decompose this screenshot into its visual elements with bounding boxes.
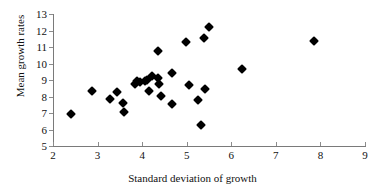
data-point: [144, 86, 154, 96]
y-tick-label: 9: [29, 75, 47, 86]
data-point: [167, 99, 177, 109]
x-tick-label: 4: [139, 150, 145, 161]
y-tick: [49, 146, 53, 147]
data-point: [87, 86, 97, 96]
x-tick-label: 2: [50, 150, 56, 161]
x-tick-label: 9: [362, 150, 368, 161]
data-point: [105, 94, 115, 104]
x-axis-line: [53, 146, 366, 147]
y-tick-label: 6: [29, 124, 47, 135]
x-axis-title: Standard deviation of growth: [0, 172, 385, 184]
y-tick-label: 10: [29, 58, 47, 69]
data-point: [167, 68, 177, 78]
scatter-chart: Standard deviation of growth Mean growth…: [0, 0, 385, 196]
y-tick-label: 5: [29, 141, 47, 152]
x-tick-label: 5: [184, 150, 190, 161]
x-tick-label: 6: [229, 150, 235, 161]
y-tick-label: 8: [29, 91, 47, 102]
data-point: [119, 107, 129, 117]
data-point: [196, 120, 206, 130]
data-point: [309, 36, 319, 46]
x-tick-label: 3: [95, 150, 101, 161]
data-point: [66, 109, 76, 119]
x-tick: [365, 142, 366, 146]
x-tick-label: 8: [318, 150, 324, 161]
data-point: [153, 47, 163, 57]
data-point: [156, 91, 166, 101]
data-point: [204, 22, 214, 32]
data-point: [184, 80, 194, 90]
data-point: [199, 33, 209, 43]
y-tick-label: 12: [29, 25, 47, 36]
data-point: [237, 64, 247, 74]
y-tick-label: 7: [29, 108, 47, 119]
y-axis-title: Mean growth rates: [14, 0, 26, 122]
y-tick-label: 11: [29, 42, 47, 53]
x-tick-label: 7: [273, 150, 279, 161]
data-point: [181, 37, 191, 47]
y-tick-label: 13: [29, 9, 47, 20]
data-point: [200, 84, 210, 94]
data-point: [112, 87, 122, 97]
plot-area: [53, 14, 365, 146]
data-point: [193, 95, 203, 105]
